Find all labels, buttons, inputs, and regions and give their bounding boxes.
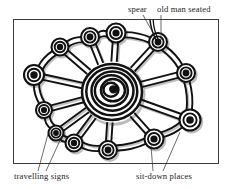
- spiral-ring-7: [110, 86, 117, 93]
- spoke-shadow: [135, 51, 156, 74]
- label-spear: spear: [128, 4, 147, 14]
- perimeter-segment-2: [161, 50, 178, 69]
- node-7-core: [72, 141, 77, 146]
- node-5-core: [151, 136, 157, 142]
- node-6: [99, 141, 117, 159]
- travelling-signs-leader-a: [38, 134, 48, 171]
- node-6-core: [105, 147, 110, 152]
- perimeter-segment-3-b: [189, 81, 192, 111]
- node-4-core: [187, 117, 193, 123]
- node-11-core: [58, 45, 63, 50]
- label-old-man-seated: old man seated: [157, 4, 211, 14]
- perimeter-segment-11-b: [66, 37, 81, 42]
- diagram-canvas: spear old man seated travelling signs si…: [0, 0, 234, 189]
- node-9: [36, 102, 52, 118]
- node-11: [52, 39, 69, 56]
- node-2: [149, 33, 167, 51]
- node-10: [24, 65, 44, 85]
- node-1: [107, 24, 126, 43]
- node-9-core: [42, 108, 47, 113]
- node-1-core: [113, 30, 119, 36]
- node-10-core: [31, 72, 37, 78]
- spoke-line-3: [141, 78, 179, 88]
- spoke-shadow: [45, 76, 86, 85]
- node-3-core: [183, 70, 188, 75]
- node-8-core: [54, 131, 58, 135]
- node-3: [177, 64, 195, 82]
- spoke-line-1-b: [111, 41, 112, 63]
- figure-root: spear old man seated travelling signs si…: [0, 0, 234, 189]
- label-travelling-signs: travelling signs: [14, 171, 70, 181]
- central-spiral-layer: [81, 61, 142, 122]
- node-12: [81, 28, 99, 46]
- node-5: [145, 130, 164, 149]
- node-7: [66, 135, 83, 152]
- label-sit-down-places: sit-down places: [136, 171, 192, 181]
- spoke-shadow: [140, 106, 182, 121]
- node-4: [180, 110, 201, 131]
- spoke-line-5: [129, 115, 146, 134]
- node-12-core: [87, 34, 92, 39]
